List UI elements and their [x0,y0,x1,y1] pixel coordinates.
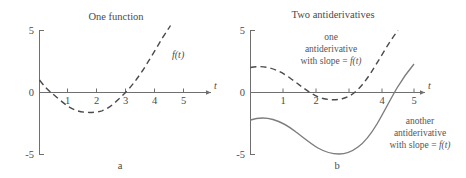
annotation-upper-line3-function: f(t) [350,56,362,67]
panel-b-x-label-4: 4 [379,95,385,106]
panel-a-curve-label: f(t) [172,49,185,61]
panel-a-y-label-bottom: -5 [25,149,34,160]
annotation-lower-line3-function: f(t) [439,140,451,151]
panel-a-x-axis-variable: t [214,80,217,91]
panel-b-title: Two antiderivatives [292,9,375,20]
annotation-upper-line2: antiderivative [305,44,357,54]
panel-b-y-label-zero: 0 [240,87,245,98]
annotation-lower-line3: with slope = f(t) [389,140,450,151]
panel-a-x-label-4: 4 [152,95,158,106]
panel-a-x-label-2: 2 [94,95,99,106]
panel-b-x-label-5: 5 [411,95,416,106]
panel-b-annotation-upper: one antiderivative with slope = f(t) [300,32,361,67]
annotation-lower-line1: another [406,116,435,126]
panel-b-y-label-bottom: -5 [236,149,245,160]
panel-a: One function 5 0 -5 1 2 3 4 5 t [25,11,217,171]
panel-a-y-label-zero: 0 [29,87,34,98]
panel-a-x-label-5: 5 [181,95,186,106]
figure-container: One function 5 0 -5 1 2 3 4 5 t [0,0,466,178]
panel-a-letter: a [118,160,123,171]
annotation-lower-line2: antiderivative [394,128,446,138]
panel-b: Two antiderivatives 5 0 -5 1 2 4 5 t [236,9,450,171]
annotation-upper-line3-text: with slope = [300,56,349,66]
panel-b-letter: b [334,160,339,171]
panel-a-x-label-3: 3 [123,95,128,106]
panel-a-title: One function [88,11,144,22]
panel-a-y-label-top: 5 [29,25,34,36]
panel-a-function-curve [40,26,171,113]
panel-b-y-label-top: 5 [240,25,245,36]
panel-b-x-axis-arrow [420,90,425,94]
annotation-lower-line3-text: with slope = [389,140,438,150]
annotation-upper-line1: one [324,32,338,42]
panel-b-x-label-1: 1 [280,95,285,106]
panel-b-annotation-lower: another antiderivative with slope = f(t) [389,116,450,151]
panel-a-x-axis-arrow [206,90,211,94]
figure-svg: One function 5 0 -5 1 2 3 4 5 t [0,0,466,178]
panel-b-x-axis-variable: t [428,80,431,91]
annotation-upper-line3: with slope = f(t) [300,56,361,67]
